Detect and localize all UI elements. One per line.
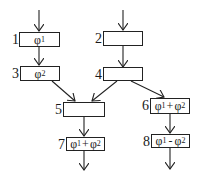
node-8-phi-a: φ	[156, 135, 163, 147]
node-1-phi: φ	[34, 34, 41, 46]
node-1-sub: 1	[41, 36, 45, 44]
node-6-sub-b: 2	[181, 102, 185, 110]
node-6-operator: +	[167, 100, 174, 112]
node-7-phi-a: φ	[70, 138, 77, 150]
node-6: φ1+φ2	[150, 98, 190, 114]
node-8-operator: -	[169, 135, 173, 147]
edge-4-6	[131, 81, 164, 97]
node-1: φ1	[19, 32, 60, 47]
node-7-number: 7	[58, 138, 65, 152]
node-3-phi: φ	[35, 68, 42, 80]
node-7-sub-a: 1	[77, 140, 81, 148]
node-8-sub-b: 2	[181, 137, 185, 145]
node-7-phi-b: φ	[90, 138, 97, 150]
node-6-number: 6	[142, 99, 149, 113]
node-4	[103, 67, 143, 81]
node-5-number: 5	[55, 103, 62, 117]
node-6-sub-a: 1	[162, 102, 166, 110]
node-1-number: 1	[12, 33, 19, 47]
node-2	[103, 31, 143, 46]
node-8-sub-a: 1	[163, 137, 167, 145]
node-8: φ1-φ2	[151, 134, 190, 148]
node-2-number: 2	[95, 32, 102, 46]
node-5	[63, 102, 105, 117]
node-4-number: 4	[95, 68, 102, 82]
node-3: φ2	[20, 66, 60, 81]
edge-4-5	[92, 81, 117, 101]
node-6-phi-a: φ	[155, 100, 162, 112]
node-7-operator: +	[82, 138, 89, 150]
edge-3-5	[52, 81, 75, 101]
node-8-number: 8	[143, 135, 150, 149]
node-7: φ1+φ2	[66, 137, 105, 151]
node-7-sub-b: 2	[97, 140, 101, 148]
node-3-number: 3	[12, 67, 19, 81]
node-8-phi-b: φ	[175, 135, 182, 147]
node-3-sub: 2	[41, 70, 45, 78]
node-6-phi-b: φ	[174, 100, 181, 112]
